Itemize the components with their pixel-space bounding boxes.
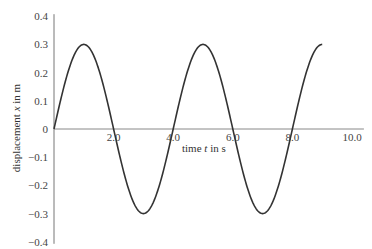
y-tick-label: −0.3 — [28, 208, 48, 220]
y-tick-label: −0.1 — [28, 151, 48, 163]
y-tick-label: 0.1 — [34, 95, 48, 107]
x-axis-label: time t in s — [182, 142, 226, 154]
x-tick-label: 10.0 — [342, 131, 362, 143]
y-axis-label: displacement x in m — [10, 83, 22, 172]
y-tick-label: 0 — [43, 123, 49, 135]
y-tick-label: 0.3 — [34, 38, 48, 50]
y-tick-label: −0.2 — [28, 179, 48, 191]
y-tick-labels: 0.40.30.20.10−0.1−0.2−0.3−0.4 — [28, 10, 48, 248]
y-tick-label: 0.2 — [34, 67, 48, 79]
x-tick-label: 8.0 — [286, 131, 300, 143]
displacement-time-chart: 0.40.30.20.10−0.1−0.2−0.3−0.4 2.04.06.08… — [0, 0, 372, 249]
y-tick-label: −0.4 — [28, 236, 48, 248]
x-tick-label: 4.0 — [166, 131, 180, 143]
y-tick-label: 0.4 — [34, 10, 48, 22]
